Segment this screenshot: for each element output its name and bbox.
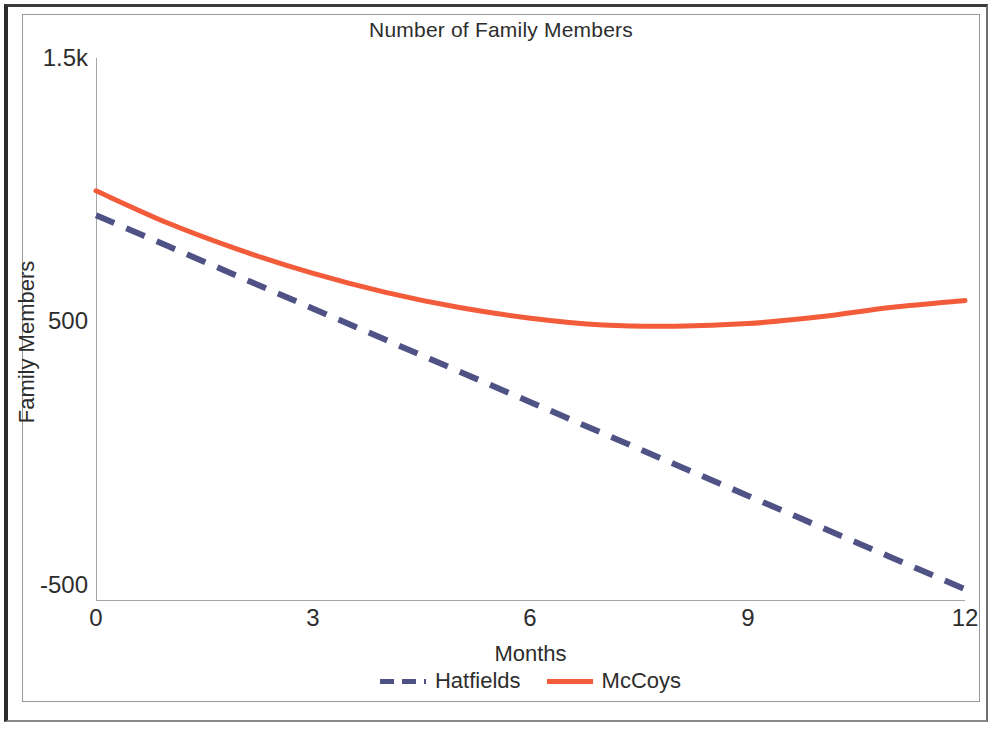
legend-item-hatfields[interactable]: Hatfields [380, 668, 521, 694]
legend-label-mccoys: McCoys [602, 668, 681, 694]
series-line-mccoys [96, 191, 965, 327]
x-tick-label-3: 9 [741, 604, 754, 632]
legend-item-mccoys[interactable]: McCoys [547, 668, 681, 694]
x-tick-label-0: 0 [89, 604, 102, 632]
series-layer [96, 58, 965, 600]
x-axis-line [96, 600, 965, 601]
chart-title: Number of Family Members [22, 18, 980, 42]
legend-label-hatfields: Hatfields [435, 668, 521, 694]
legend-swatch-dashed-icon [380, 679, 426, 684]
series-line-hatfields [96, 215, 965, 589]
y-axis-title: Family Members [14, 192, 40, 492]
x-tick-label-2: 6 [523, 604, 536, 632]
y-tick-label-1: 500 [48, 307, 88, 335]
x-tick-label-4: 12 [952, 604, 979, 632]
x-axis-title: Months [96, 641, 965, 667]
x-tick-label-1: 3 [306, 604, 319, 632]
chart-page: Number of Family Members 1.5k 500 -500 0… [0, 0, 992, 730]
legend-swatch-solid-icon [547, 679, 593, 684]
chart-legend: Hatfields McCoys [96, 668, 965, 694]
plot-area [96, 58, 965, 600]
y-tick-label-2: -500 [40, 571, 88, 599]
y-tick-label-0: 1.5k [43, 44, 88, 72]
